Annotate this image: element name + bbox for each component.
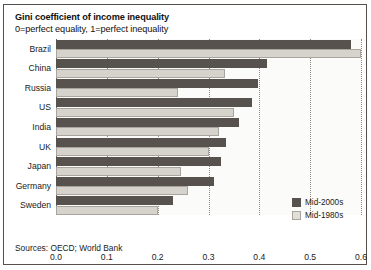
bar-mid-2000s-brazil xyxy=(56,40,351,49)
gridline xyxy=(361,39,362,215)
bar-mid-1980s-uk xyxy=(56,147,209,156)
y-axis-label-sweden: Sweden xyxy=(20,200,51,210)
bar-row: India xyxy=(56,117,361,137)
bar-mid-1980s-china xyxy=(56,69,225,78)
y-axis-label-japan: Japan xyxy=(28,161,51,171)
bar-mid-2000s-uk xyxy=(56,138,226,147)
x-tick-label: 0.2 xyxy=(152,252,164,262)
x-tick-label: 0.0 xyxy=(50,252,62,262)
chart-figure: Gini coefficient of income inequality 0=… xyxy=(3,4,367,265)
legend-swatch-icon xyxy=(292,198,301,207)
y-axis-label-china: China xyxy=(29,63,51,73)
y-axis-label-germany: Germany xyxy=(16,181,51,191)
bar-mid-1980s-us xyxy=(56,108,234,117)
legend: Mid-2000sMid-1980s xyxy=(292,197,343,223)
x-tick-label: 0.6 xyxy=(355,252,367,262)
bar-mid-2000s-china xyxy=(56,59,267,68)
y-axis-label-india: India xyxy=(32,122,51,132)
chart-subtitle: 0=perfect equality, 1=perfect inequality xyxy=(15,24,168,34)
bar-mid-2000s-germany xyxy=(56,177,214,186)
bar-mid-1980s-japan xyxy=(56,167,181,176)
bar-mid-2000s-us xyxy=(56,98,252,107)
bar-mid-2000s-russia xyxy=(56,79,258,88)
y-axis-label-uk: UK xyxy=(39,142,51,152)
bar-mid-2000s-japan xyxy=(56,157,221,166)
legend-label: Mid-1980s xyxy=(305,211,343,220)
source-note: Sources: OECD; World Bank xyxy=(15,243,122,253)
bar-row: China xyxy=(56,59,361,79)
bar-row: Russia xyxy=(56,78,361,98)
x-tick-label: 0.1 xyxy=(101,252,113,262)
bar-row: Brazil xyxy=(56,39,361,59)
legend-item: Mid-1980s xyxy=(292,210,343,221)
bar-row: US xyxy=(56,98,361,118)
y-axis-label-brazil: Brazil xyxy=(30,44,52,54)
legend-item: Mid-2000s xyxy=(292,197,343,208)
bar-mid-1980s-germany xyxy=(56,186,188,195)
bar-mid-2000s-india xyxy=(56,118,239,127)
chart-title: Gini coefficient of income inequality xyxy=(15,12,169,22)
legend-swatch-icon xyxy=(292,211,301,220)
y-axis-label-us: US xyxy=(39,102,51,112)
x-tick-label: 0.5 xyxy=(304,252,316,262)
legend-label: Mid-2000s xyxy=(305,198,343,207)
bar-mid-2000s-sweden xyxy=(56,196,173,205)
x-tick-label: 0.4 xyxy=(253,252,265,262)
bar-row: Japan xyxy=(56,156,361,176)
bar-mid-1980s-india xyxy=(56,127,219,136)
plot-area: BrazilChinaRussiaUSIndiaUKJapanGermanySw… xyxy=(56,39,361,215)
chart-inner: Gini coefficient of income inequality 0=… xyxy=(4,5,366,264)
bar-row: UK xyxy=(56,137,361,157)
bar-mid-1980s-russia xyxy=(56,88,178,97)
bar-mid-1980s-sweden xyxy=(56,206,158,215)
bar-row: Germany xyxy=(56,176,361,196)
y-axis-label-russia: Russia xyxy=(25,83,51,93)
x-tick-label: 0.3 xyxy=(203,252,215,262)
bar-mid-1980s-brazil xyxy=(56,49,361,58)
